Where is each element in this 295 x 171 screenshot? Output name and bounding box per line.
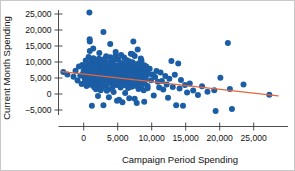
data-point xyxy=(135,47,141,53)
scatter-plot-figure: 05,00010,00015,00020,00025,000 −5,00005,… xyxy=(0,0,295,171)
data-point xyxy=(141,99,147,105)
data-point xyxy=(229,106,235,112)
data-point xyxy=(89,103,95,109)
data-point xyxy=(190,87,196,93)
data-point xyxy=(147,66,153,72)
y-tick-label: 15,000 xyxy=(25,41,52,51)
data-point xyxy=(177,86,183,92)
data-point xyxy=(114,98,120,104)
data-point xyxy=(172,72,178,78)
data-point xyxy=(173,102,179,108)
data-point xyxy=(130,39,136,45)
data-point xyxy=(138,55,144,61)
data-points-layer xyxy=(60,9,272,114)
data-point xyxy=(225,40,231,46)
x-tick-label: 15,000 xyxy=(173,133,200,143)
data-point xyxy=(180,103,186,109)
data-point xyxy=(100,29,106,35)
data-point xyxy=(217,75,223,81)
x-axis-title: Campaign Period Spending xyxy=(122,154,238,165)
data-point xyxy=(145,85,151,91)
data-point xyxy=(107,54,113,60)
data-point xyxy=(106,94,112,100)
data-point xyxy=(134,100,140,106)
data-point xyxy=(164,81,170,87)
data-point xyxy=(151,93,157,99)
data-point xyxy=(113,49,119,55)
x-tick-label: 10,000 xyxy=(139,133,166,143)
chart-canvas: 05,00010,00015,00020,00025,000 −5,00005,… xyxy=(0,0,295,171)
data-point xyxy=(87,39,93,45)
data-point xyxy=(204,89,210,95)
data-point xyxy=(213,108,219,114)
data-point xyxy=(107,41,113,47)
data-point xyxy=(122,90,128,96)
data-point xyxy=(90,46,96,52)
x-tick-label: 5,000 xyxy=(107,133,129,143)
data-point xyxy=(104,88,110,94)
data-point xyxy=(126,95,132,101)
data-point xyxy=(160,87,166,93)
data-point xyxy=(158,70,164,76)
data-point xyxy=(130,51,136,57)
y-tick-label: 20,000 xyxy=(25,25,52,35)
data-point xyxy=(119,99,125,105)
data-point xyxy=(168,58,174,64)
data-point xyxy=(118,52,124,58)
data-point xyxy=(175,61,181,67)
data-point xyxy=(124,57,130,63)
data-point xyxy=(102,56,108,62)
x-tick-label: 20,000 xyxy=(207,133,234,143)
data-point xyxy=(95,93,101,99)
data-point xyxy=(93,86,99,92)
y-tick-label: 10,000 xyxy=(25,57,52,67)
data-point xyxy=(96,50,102,56)
data-point xyxy=(165,95,171,101)
data-point xyxy=(195,92,201,98)
x-tick-label: 0 xyxy=(81,133,86,143)
data-point xyxy=(166,76,172,82)
data-point xyxy=(178,77,184,83)
y-tick-label: 25,000 xyxy=(25,9,52,19)
data-point xyxy=(111,89,117,95)
data-point xyxy=(184,89,190,95)
data-point xyxy=(199,83,205,89)
y-tick-label: 0 xyxy=(47,89,52,99)
y-axis: −5,00005,00010,00015,00020,00025,000 xyxy=(25,9,63,115)
x-tick-label: 25,000 xyxy=(241,133,268,143)
data-point xyxy=(100,102,106,108)
y-axis-title: Current Month Spending xyxy=(1,16,12,120)
data-point xyxy=(86,9,92,15)
y-tick-label: 5,000 xyxy=(30,73,52,83)
y-tick-label: −5,000 xyxy=(25,105,52,115)
data-point xyxy=(241,81,247,87)
x-axis: 05,00010,00015,00020,00025,000 xyxy=(59,123,289,143)
